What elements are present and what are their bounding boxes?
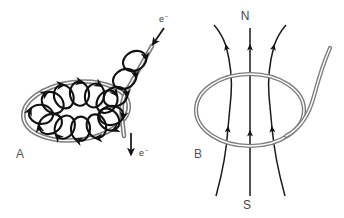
panel-a-label: A [16, 147, 24, 161]
field-line-tip-right [274, 25, 286, 46]
field-line-mid-right [269, 96, 272, 128]
electron-outflow-label-superscript: − [145, 147, 149, 153]
electron-inflow-label-superscript: − [165, 13, 169, 19]
north-pole-label: N [241, 9, 250, 23]
field-line-mid-left [228, 96, 231, 128]
field-line-tip-left [214, 25, 226, 46]
panel-a: e − e − A [16, 13, 169, 161]
dipole-lead-wire-outer [286, 48, 330, 136]
electron-inflow-label: e [159, 14, 164, 24]
panel-b: N S B [194, 9, 330, 212]
panel-b-wire [196, 48, 330, 146]
south-pole-label: S [243, 198, 251, 212]
figure-canvas: e − e − A [0, 0, 344, 218]
electron-outflow-label: e [139, 148, 144, 158]
physics-figure-current-loop-magnetic-field: e − e − A [0, 0, 344, 218]
field-line-arrow-upper-right [269, 46, 274, 96]
electron-inflow-arrow [153, 28, 164, 44]
panel-b-field-lines [214, 25, 286, 196]
panel-b-label: B [194, 147, 202, 161]
field-line-arrow-upper-left [226, 46, 231, 96]
panel-a-field-rings [28, 47, 150, 142]
